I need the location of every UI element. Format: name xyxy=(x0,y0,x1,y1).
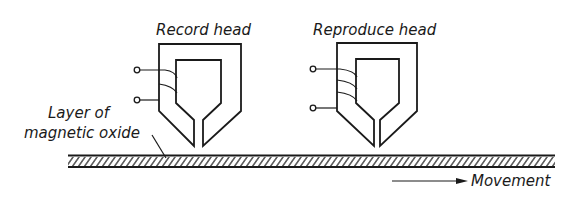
reproduce-coil-turn-1 xyxy=(337,80,357,89)
magnetic-tape xyxy=(68,156,555,168)
reproduce-head-label: Reproduce head xyxy=(313,21,437,39)
layer-label-line1: Layer of xyxy=(48,104,112,122)
record-terminal-top xyxy=(134,67,140,73)
oxide-layer-hatch xyxy=(68,157,555,166)
record-head-label: Record head xyxy=(156,21,251,39)
record-terminal-bottom xyxy=(134,97,140,103)
arrow-head-icon xyxy=(456,178,468,184)
record-coil-turn xyxy=(159,84,177,93)
layer-label-line2: magnetic oxide xyxy=(24,124,140,142)
reproduce-head xyxy=(310,43,417,146)
layer-leader-line xyxy=(152,135,166,158)
movement-arrow xyxy=(392,178,468,184)
movement-label: Movement xyxy=(471,172,552,190)
reproduce-terminal-bottom xyxy=(310,105,316,111)
magnetic-recording-diagram: Record head Reproduce head Layer of magn… xyxy=(0,0,567,200)
record-head-core xyxy=(159,44,241,146)
reproduce-coil-turn-2 xyxy=(337,92,357,101)
reproduce-terminal-top xyxy=(310,66,316,72)
record-head xyxy=(134,44,241,146)
